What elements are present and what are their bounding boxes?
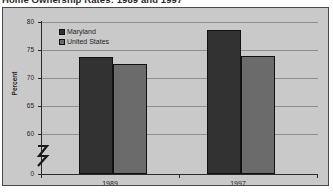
y-tick-75 [38,50,42,51]
x-tick-label-1997: 1997 [208,180,268,186]
y-tick-80 [38,22,42,23]
legend-item-united-states: United States [59,37,109,46]
chart-frame: 80 75 70 65 60 0 Percent 1989 1997 Maryl… [2,7,329,186]
x-tick-start [41,174,42,178]
legend-swatch-maryland [59,29,65,35]
x-tick-middle [179,174,180,178]
legend-label-maryland: Maryland [67,28,96,35]
y-tick-label-80: 80 [12,18,34,25]
x-tick-end [317,174,318,178]
y-tick-65 [38,106,42,107]
y-axis-title: Percent [11,59,18,109]
chart-title-strip: Home Ownership Rates: 1989 and 1997 [0,0,333,7]
legend-item-maryland: Maryland [59,27,109,36]
chart-legend: Maryland United States [59,27,109,47]
y-tick-label-60: 60 [12,130,34,137]
page-title: Home Ownership Rates: 1989 and 1997 [2,0,182,5]
bar-maryland-1997 [207,30,241,174]
y-tick-label-75: 75 [12,46,34,53]
gridline-75 [41,50,318,51]
legend-swatch-united-states [59,39,65,45]
gridline-80 [41,22,318,23]
legend-label-united-states: United States [67,38,109,45]
y-tick-label-0: 0 [12,170,34,177]
axis-break-icon [34,144,50,168]
chart-page: Home Ownership Rates: 1989 and 1997 80 [0,0,333,193]
bar-maryland-1989 [79,57,113,174]
bar-united-states-1997 [241,56,275,174]
y-tick-60 [38,134,42,135]
x-tick-label-1989: 1989 [80,180,140,186]
bar-united-states-1989 [113,64,147,174]
y-tick-70 [38,78,42,79]
